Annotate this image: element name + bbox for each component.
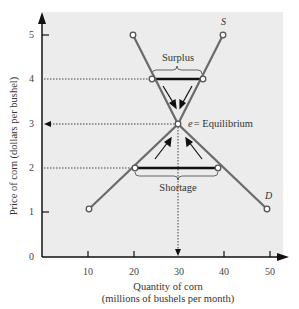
y-tick-2: 2 xyxy=(29,162,34,173)
x-tick-10: 10 xyxy=(83,266,93,277)
demand-label: D xyxy=(264,190,273,201)
supply-demand-chart: 5 4 3 2 1 0 10 20 30 40 50 Price of corn… xyxy=(0,0,299,309)
equilibrium-text: = Equilibrium xyxy=(194,118,253,129)
x-tick-30: 30 xyxy=(174,266,184,277)
x-tick-50: 50 xyxy=(265,266,275,277)
y-tick-4: 4 xyxy=(29,73,34,84)
x-tick-20: 20 xyxy=(129,266,139,277)
supply-label: S xyxy=(221,16,226,27)
y-axis-title: Price of corn (dollars per bushel) xyxy=(8,76,20,215)
plot-background xyxy=(43,12,283,257)
surplus-label: Surplus xyxy=(162,52,194,63)
y-tick-0: 0 xyxy=(29,251,34,262)
shortage-label: Shortage xyxy=(159,182,197,193)
x-axis-subtitle: (millions of bushels per month) xyxy=(102,293,235,305)
y-tick-3: 3 xyxy=(29,118,34,129)
y-tick-1: 1 xyxy=(29,206,34,217)
y-tick-5: 5 xyxy=(29,29,34,40)
equilibrium-label: e= Equilibrium xyxy=(188,118,253,129)
x-axis-title: Quantity of corn xyxy=(133,281,203,292)
x-tick-40: 40 xyxy=(219,266,229,277)
equilibrium-e: e xyxy=(188,118,193,129)
